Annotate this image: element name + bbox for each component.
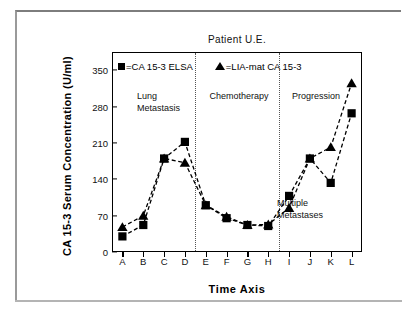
y-tick-mark [112, 179, 117, 180]
annotation-lung-metastasis: LungMetastasis [137, 90, 180, 114]
chart-legend: =CA 15-3 ELSA =LIA-mat CA 15-3 [118, 58, 356, 74]
y-tick-label: 280 [74, 101, 108, 112]
annotation-line: Metastases [277, 209, 323, 221]
x-tick-label-l: L [343, 256, 361, 267]
y-tick-mark [112, 215, 117, 216]
divider-h-i [279, 53, 280, 251]
annotation-chemotherapy: Chemotherapy [210, 90, 269, 102]
square-marker-icon [118, 63, 125, 70]
x-tick-label-e: E [197, 256, 215, 267]
legend-entry-elsa: =CA 15-3 ELSA [118, 61, 193, 72]
y-tick-label: 70 [74, 210, 108, 221]
y-tick-mark [112, 142, 117, 143]
line-chart: Patient U.E. CA 15-3 Serum Concentration… [0, 0, 402, 314]
x-axis-label: Time Axis [112, 283, 362, 295]
y-tick-label: 350 [74, 65, 108, 76]
y-axis-label: CA 15-3 Serum Concentration (U/ml) [61, 21, 73, 291]
y-tick-mark [112, 251, 117, 252]
x-tick-label-d: D [176, 256, 194, 267]
triangle-marker-icon [215, 62, 225, 70]
x-tick-label-i: I [280, 256, 298, 267]
y-tick-label: 210 [74, 137, 108, 148]
x-tick-label-a: A [113, 256, 131, 267]
x-tick-label-g: G [238, 256, 256, 267]
annotation-progression: Progression [292, 90, 340, 102]
y-tick-mark [112, 106, 117, 107]
x-tick-label-f: F [218, 256, 236, 267]
figure-canvas: Patient U.E. CA 15-3 Serum Concentration… [0, 0, 402, 314]
x-tick-label-k: K [322, 256, 340, 267]
annotation-multiple-metastases: MultipleMetastases [277, 197, 323, 221]
legend-entry-lia-mat: =LIA-mat CA 15-3 [215, 61, 302, 72]
y-tick-mark [112, 70, 117, 71]
annotation-line: Multiple [277, 197, 323, 209]
legend-label-lia-mat: =LIA-mat CA 15-3 [226, 61, 302, 72]
annotation-line: Metastasis [137, 102, 180, 114]
legend-label-elsa: =CA 15-3 ELSA [126, 61, 193, 72]
y-tick-label: 0 [74, 247, 108, 258]
x-tick-label-b: B [134, 256, 152, 267]
x-tick-label-h: H [259, 256, 277, 267]
annotation-line: Chemotherapy [210, 90, 269, 102]
y-tick-label: 140 [74, 174, 108, 185]
annotation-line: Lung [137, 90, 180, 102]
x-tick-label-j: J [301, 256, 319, 267]
plot-area [112, 52, 362, 252]
x-tick-label-c: C [155, 256, 173, 267]
divider-d-e [195, 53, 196, 251]
annotation-line: Progression [292, 90, 340, 102]
chart-title: Patient U.E. [112, 34, 362, 45]
